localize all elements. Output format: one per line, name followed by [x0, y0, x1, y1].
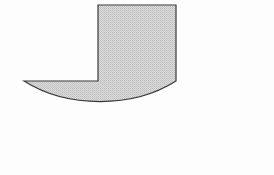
tee-shape-with-semielliptical-base	[24, 5, 176, 102]
figure-canvas	[0, 0, 274, 175]
figure-outline-path	[24, 5, 176, 102]
shape-figure-svg	[0, 0, 274, 175]
